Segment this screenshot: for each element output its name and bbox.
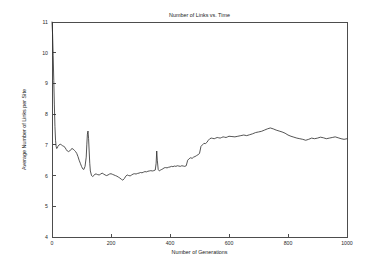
- y-tick-label: 8: [45, 111, 48, 117]
- y-tick-label: 10: [42, 50, 48, 56]
- x-tick-label: 600: [225, 240, 234, 246]
- x-tick-label: 200: [107, 240, 116, 246]
- chart-title: Number of Links vs. Time: [169, 12, 230, 18]
- y-tick-label: 9: [45, 80, 48, 86]
- y-tick-label: 5: [45, 203, 48, 209]
- y-axis-title: Average Number of Links per Site: [21, 89, 27, 170]
- x-tick-label: 400: [166, 240, 175, 246]
- figure-container: Number of Links vs. Time 020040060080010…: [0, 0, 367, 268]
- y-tick-label: 7: [45, 142, 48, 148]
- y-tick-label: 4: [45, 234, 48, 240]
- x-tick-label: 0: [51, 240, 54, 246]
- links-vs-time-chart: Number of Links vs. Time 020040060080010…: [0, 0, 367, 268]
- x-tick-label: 800: [284, 240, 293, 246]
- x-tick-label: 1000: [341, 240, 353, 246]
- plot-area-background: [52, 22, 347, 237]
- y-tick-label: 6: [45, 173, 48, 179]
- y-tick-label: 11: [43, 19, 48, 25]
- x-axis-title: Number of Generations: [171, 249, 227, 255]
